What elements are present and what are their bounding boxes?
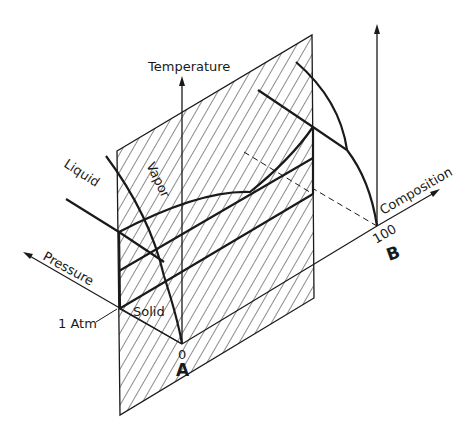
temperature-label: Temperature [147,59,230,74]
solid-label: Solid [133,304,165,319]
liquid-label: Liquid [61,156,102,190]
temperature-b-arrow-icon [374,24,380,34]
pressure-label: Pressure [41,249,97,289]
one-atm-label: 1 Atm [58,316,97,331]
pressure-arrow-icon [23,252,33,259]
composition-label: Composition [377,164,455,218]
component-b-label: B [384,242,403,265]
phase-diagram: Temperature Composition Pressure Liquid … [0,0,467,434]
temperature-arrow-icon [179,76,185,86]
component-a-label: A [176,360,190,380]
